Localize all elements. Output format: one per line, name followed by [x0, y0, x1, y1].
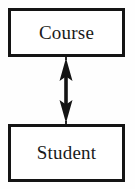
double-headed-vertical-arrow-icon	[52, 54, 80, 127]
diagram-canvas: Course Student	[0, 0, 135, 189]
entity-label-course: Course	[39, 23, 94, 42]
arrow-tail-top	[65, 54, 67, 60]
entity-box-student[interactable]: Student	[8, 124, 125, 182]
arrow-shaft	[64, 75, 68, 105]
arrow-svg	[52, 54, 80, 127]
entity-label-student: Student	[37, 143, 96, 162]
entity-box-course[interactable]: Course	[8, 8, 125, 57]
